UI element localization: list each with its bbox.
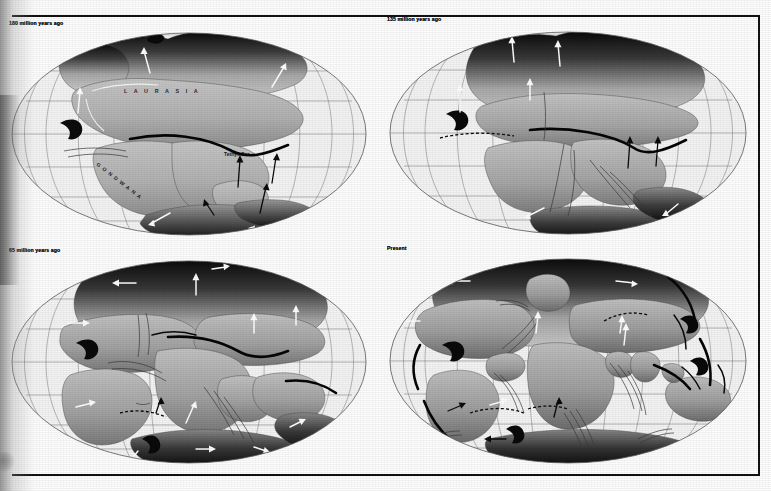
right-rule — [758, 15, 760, 475]
southeast-dark-65 — [275, 413, 351, 453]
map-panel-65ma: 65 million years ago — [0, 243, 378, 473]
panel-label-180ma: 180 million years ago — [9, 20, 63, 26]
bottom-rule — [12, 474, 760, 476]
panel-label-135ma: 135 million years ago — [387, 16, 441, 22]
globe-svg-180ma: L A U R A S I A GONDWANA Tethys Sea — [0, 27, 378, 241]
north-america — [415, 299, 534, 358]
panel-label-present: Present — [387, 245, 407, 251]
globe-svg-65ma — [0, 255, 378, 469]
label-laurasia: L A U R A S I A — [124, 88, 200, 94]
map-panel-present: Present — [378, 241, 758, 473]
globe-135ma — [378, 26, 758, 240]
globe-present — [378, 253, 758, 469]
panel-label-65ma: 65 million years ago — [9, 247, 60, 253]
label-tethys-sea: Tethys Sea — [224, 152, 250, 157]
figure-page: 180 million years ago — [0, 0, 771, 491]
globe-svg-135ma — [378, 26, 758, 240]
globe-65ma — [0, 255, 378, 469]
map-panel-135ma: 135 million years ago — [378, 14, 758, 244]
map-panel-180ma: 180 million years ago — [0, 18, 378, 244]
globe-svg-present — [378, 253, 758, 469]
globe-180ma: L A U R A S I A GONDWANA Tethys Sea — [0, 27, 378, 241]
